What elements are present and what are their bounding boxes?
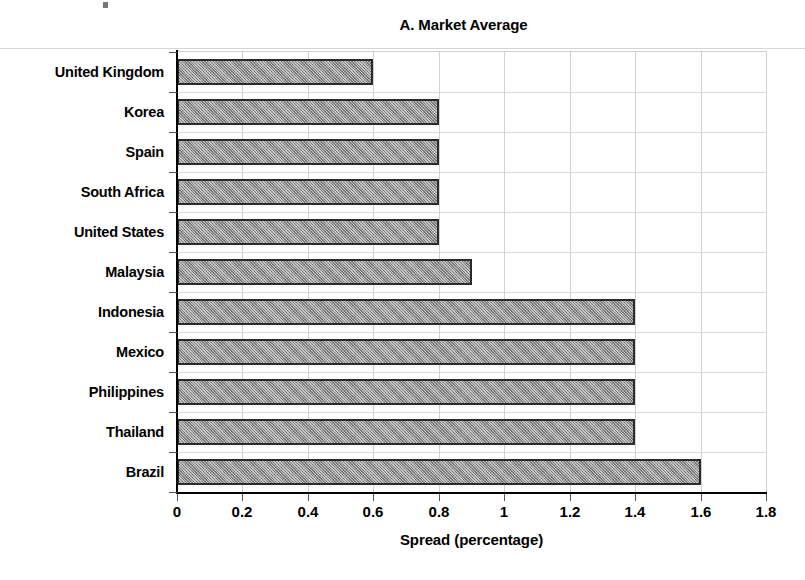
y-gridline — [177, 332, 766, 333]
x-axis-tick-label: 0 — [147, 503, 207, 520]
x-axis-tick — [308, 494, 309, 501]
y-axis-label: Korea — [0, 104, 164, 120]
y-axis-label: Malaysia — [0, 264, 164, 280]
x-axis-tick — [701, 494, 702, 501]
y-axis-tick — [169, 452, 177, 453]
y-gridline — [177, 92, 766, 93]
x-axis-tick-label: 1.6 — [671, 503, 731, 520]
y-gridline — [177, 372, 766, 373]
y-axis-tick — [169, 132, 177, 133]
y-axis-tick — [169, 172, 177, 173]
x-axis-tick-label: 1.4 — [605, 503, 665, 520]
x-axis-tick-label: 1 — [474, 503, 534, 520]
y-axis-tick — [169, 492, 177, 493]
y-axis-label: Philippines — [0, 384, 164, 400]
x-axis-tick-label: 0.2 — [212, 503, 272, 520]
y-axis-label: Indonesia — [0, 304, 164, 320]
bar — [177, 259, 472, 285]
x-axis-tick-label: 0.6 — [343, 503, 403, 520]
x-axis-tick — [504, 494, 505, 501]
y-axis-label: Mexico — [0, 344, 164, 360]
y-axis-tick — [169, 332, 177, 333]
y-axis-label: United States — [0, 224, 164, 240]
y-axis-tick — [169, 412, 177, 413]
x-axis-tick — [242, 494, 243, 501]
bar — [177, 339, 635, 365]
y-gridline — [177, 412, 766, 413]
x-axis-tick — [570, 494, 571, 501]
y-axis-label: Thailand — [0, 424, 164, 440]
x-axis-tick-label: 1.2 — [540, 503, 600, 520]
bar — [177, 219, 439, 245]
x-axis-tick-label: 1.8 — [736, 503, 796, 520]
x-axis-tick-label: 0.8 — [409, 503, 469, 520]
bar — [177, 139, 439, 165]
plot-area — [177, 52, 766, 492]
x-axis-tick — [635, 494, 636, 501]
y-axis-label: United Kingdom — [0, 64, 164, 80]
bar — [177, 419, 635, 445]
bar — [177, 99, 439, 125]
x-axis-tick-label: 0.4 — [278, 503, 338, 520]
y-axis-tick — [169, 292, 177, 293]
y-axis-line — [176, 50, 178, 494]
bar — [177, 299, 635, 325]
y-axis-tick — [169, 372, 177, 373]
y-gridline — [177, 292, 766, 293]
x-axis-tick — [373, 494, 374, 501]
bar — [177, 379, 635, 405]
x-gridline — [701, 52, 702, 492]
x-axis-tick — [766, 494, 767, 501]
y-axis-label: South Africa — [0, 184, 164, 200]
x-axis-tick — [439, 494, 440, 501]
x-axis-line — [176, 492, 767, 494]
bar — [177, 459, 701, 485]
y-gridline — [177, 252, 766, 253]
y-axis-label: Brazil — [0, 464, 164, 480]
y-gridline — [177, 212, 766, 213]
x-axis-title: Spread (percentage) — [177, 531, 766, 548]
x-axis-tick — [177, 494, 178, 501]
header-divider — [0, 48, 805, 49]
y-gridline — [177, 172, 766, 173]
y-axis-tick — [169, 252, 177, 253]
y-axis-label: Spain — [0, 144, 164, 160]
bar — [177, 59, 373, 85]
x-gridline — [766, 52, 767, 492]
y-gridline — [177, 132, 766, 133]
scan-artifact — [103, 2, 108, 8]
y-axis-tick — [169, 212, 177, 213]
chart-title: A. Market Average — [0, 16, 805, 33]
y-axis-tick — [169, 52, 177, 53]
bar — [177, 179, 439, 205]
y-axis-tick — [169, 92, 177, 93]
x-gridline — [635, 52, 636, 492]
y-gridline — [177, 452, 766, 453]
